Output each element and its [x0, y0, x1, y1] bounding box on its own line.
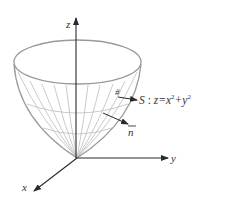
paraboloid-diagram: z y x # S : z=x2+y2 n	[0, 0, 225, 200]
normal-vector-label: n	[128, 126, 134, 138]
surface-mesh	[18, 72, 137, 158]
surface-pointer-arrow	[118, 97, 137, 100]
y-axis-label: y	[170, 152, 176, 164]
surface-outline	[14, 40, 141, 158]
x-axis	[34, 158, 77, 191]
surface-equation: S : z=x2+y2	[139, 93, 191, 107]
normal-vector-arrow	[103, 113, 128, 124]
z-axis-label: z	[65, 18, 71, 30]
x-axis-label: x	[21, 181, 27, 193]
patch-mark: #	[115, 87, 120, 97]
